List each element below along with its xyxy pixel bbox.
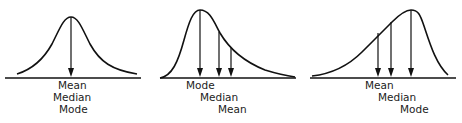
distribution-diagram: Mean Median Mode Mode Median Mean Mean M… [0,0,462,123]
label-mode: Mode [59,103,88,115]
normal-curve [17,17,137,74]
arrowhead-icon [68,68,74,77]
label-mean: Mean [58,79,87,91]
arrowhead-icon [408,68,414,77]
arrowhead-icon [375,68,381,77]
label-mean: Mean [218,103,247,115]
panel-negatively-skewed: Mean Median Mode [310,10,456,115]
label-median: Median [378,91,416,103]
label-median: Median [200,91,238,103]
label-median: Median [53,91,91,103]
left-skewed-curve [312,10,448,76]
right-skewed-curve [160,10,295,78]
arrowhead-icon [228,68,234,77]
arrowhead-icon [197,68,203,77]
label-mode: Mode [400,103,429,115]
arrowhead-icon [216,68,222,77]
label-mode: Mode [186,79,215,91]
arrowhead-icon [388,68,394,77]
panel-symmetric: Mean Median Mode [5,17,141,115]
panel-positively-skewed: Mode Median Mean [160,10,296,115]
label-mean: Mean [365,79,394,91]
